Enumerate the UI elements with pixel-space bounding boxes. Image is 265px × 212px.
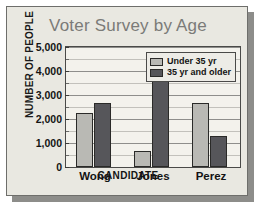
y-tick-label: 3,000 [22, 89, 62, 101]
y-tick-mark [65, 119, 69, 120]
y-tick-mark [65, 95, 69, 96]
y-tick-mark-minor [66, 83, 69, 84]
legend-swatch-icon [150, 69, 163, 77]
x-axis-title: CANDIDATE [7, 170, 249, 181]
y-tick-mark-minor [66, 107, 69, 108]
y-tick-mark-minor [66, 59, 69, 60]
plot-area-wrapper: Under 35 yr 35 yr and older 01,0002,0003… [65, 46, 241, 168]
y-tick-mark [65, 71, 69, 72]
bar [94, 103, 111, 167]
chart-figure: Voter Survey by Age NUMBER OF PEOPLE Und… [0, 0, 265, 212]
legend-swatch-icon [150, 58, 163, 66]
y-tick-mark-minor [66, 131, 69, 132]
chart-title: Voter Survey by Age [7, 16, 249, 36]
bar [134, 151, 151, 167]
y-tick-mark-minor [66, 155, 69, 156]
legend-item-label: Under 35 yr [167, 56, 217, 67]
legend-item: 35 yr and older [150, 67, 231, 78]
y-tick-mark [65, 167, 69, 168]
y-tick-mark [65, 143, 69, 144]
y-tick-label: 4,000 [22, 65, 62, 77]
bar [152, 79, 169, 167]
y-tick-label: 1,000 [22, 137, 62, 149]
plot-area: Under 35 yr 35 yr and older [65, 46, 241, 168]
bar [76, 113, 93, 167]
y-tick-mark [65, 47, 69, 48]
y-tick-label: 2,000 [22, 113, 62, 125]
chart-legend: Under 35 yr 35 yr and older [146, 52, 236, 82]
chart-card: Voter Survey by Age NUMBER OF PEOPLE Und… [6, 6, 248, 196]
bar [210, 136, 227, 167]
legend-item-label: 35 yr and older [167, 67, 231, 78]
y-tick-label: 5,000 [22, 41, 62, 53]
legend-item: Under 35 yr [150, 56, 231, 67]
bar [192, 103, 209, 167]
